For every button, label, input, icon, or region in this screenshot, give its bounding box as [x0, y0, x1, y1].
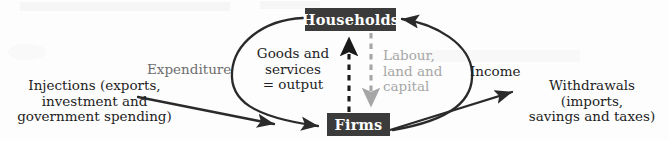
- label-labour-land-capital: Labour, land and capital: [383, 48, 457, 95]
- label-expenditure: Expenditure: [147, 62, 243, 78]
- node-households[interactable]: Households: [305, 8, 396, 31]
- withdrawals-arrow: [390, 92, 512, 130]
- label-goods-services: Goods and services = output: [245, 46, 341, 93]
- circular-flow-diagram: Households Firms Injections (exports, in…: [0, 0, 669, 141]
- node-firms[interactable]: Firms: [327, 113, 390, 136]
- label-withdrawals: Withdrawals (imports, savings and taxes): [516, 78, 668, 125]
- label-injections: Injections (exports, investment and gove…: [2, 78, 187, 125]
